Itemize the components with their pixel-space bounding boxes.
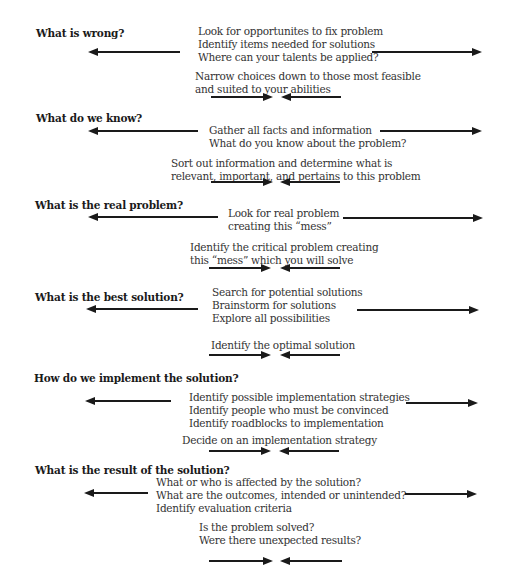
stage-1-expand-line-3: Where can your talents be applied? bbox=[198, 51, 383, 64]
stage-3-expand-line-1: Look for real problem bbox=[228, 207, 339, 220]
stage-6-expand-text: What or who is affected by the solution?… bbox=[156, 476, 406, 515]
stage-1-heading: What is wrong? bbox=[36, 27, 124, 39]
stage-6-converge-line-1: Is the problem solved? bbox=[199, 521, 361, 534]
stage-1-expand-line-1: Look for opportunites to fix problem bbox=[198, 25, 383, 38]
stage-6-expand-line-2: What are the outcomes, intended or unint… bbox=[156, 489, 406, 502]
stage-1-expand-line-2: Identify items needed for solutions bbox=[198, 38, 383, 51]
stage-1-expand-text: Look for opportunites to fix problem Ide… bbox=[198, 25, 383, 64]
arrow-left-icon bbox=[84, 488, 148, 498]
stage-6-converge-line-2: Were there unexpected results? bbox=[199, 534, 361, 547]
arrow-left-icon bbox=[86, 304, 198, 314]
stage-3-heading: What is the real problem? bbox=[35, 199, 183, 211]
arrow-right-icon bbox=[405, 489, 477, 499]
stage-6-converge-text: Is the problem solved? Were there unexpe… bbox=[199, 521, 361, 547]
stage-5-heading: How do we implement the solution? bbox=[34, 372, 238, 384]
stage-4-expand-text: Search for potential solutions Brainstor… bbox=[212, 286, 362, 325]
stage-6-expand-line-3: Identify evaluation criteria bbox=[156, 502, 406, 515]
stage-6-expand-line-1: What or who is affected by the solution? bbox=[156, 476, 406, 489]
converge-arrow-left-icon bbox=[281, 92, 341, 102]
arrow-right-icon bbox=[372, 47, 482, 57]
stage-5-expand-line-2: Identify people who must be convinced bbox=[189, 404, 410, 417]
converge-arrow-left-icon bbox=[280, 177, 340, 187]
arrow-right-icon bbox=[357, 305, 479, 315]
stage-2-converge-line-1: Sort out information and determine what … bbox=[171, 157, 421, 170]
stage-4-expand-line-1: Search for potential solutions bbox=[212, 286, 362, 299]
arrow-left-icon bbox=[85, 396, 171, 406]
stage-3-expand-line-2: creating this “mess” bbox=[228, 220, 339, 233]
stage-2-expand-line-2: What do you know about the problem? bbox=[209, 137, 406, 150]
converge-arrow-right-icon bbox=[211, 177, 273, 187]
stage-2-heading: What do we know? bbox=[36, 112, 142, 124]
stage-2-expand-text: Gather all facts and information What do… bbox=[209, 124, 406, 150]
converge-arrow-right-icon bbox=[209, 556, 273, 566]
arrow-right-icon bbox=[343, 213, 483, 223]
stage-6-heading: What is the result of the solution? bbox=[35, 464, 230, 476]
converge-arrow-left-icon bbox=[280, 350, 340, 360]
stage-3-converge-line-1: Identify the critical problem creating bbox=[190, 241, 378, 254]
converge-arrow-right-icon bbox=[209, 446, 271, 456]
converge-arrow-left-icon bbox=[280, 556, 342, 566]
arrow-right-icon bbox=[380, 126, 482, 136]
stage-5-expand-text: Identify possible implementation strateg… bbox=[189, 391, 410, 430]
converge-arrow-right-icon bbox=[209, 350, 271, 360]
converge-arrow-left-icon bbox=[280, 263, 340, 273]
arrow-left-icon bbox=[88, 212, 218, 222]
stage-5-expand-line-1: Identify possible implementation strateg… bbox=[189, 391, 410, 404]
converge-arrow-right-icon bbox=[211, 92, 273, 102]
arrow-right-icon bbox=[406, 398, 478, 408]
arrow-left-icon bbox=[88, 47, 180, 57]
stage-4-heading: What is the best solution? bbox=[35, 291, 184, 303]
stage-5-expand-line-3: Identify roadblocks to implementation bbox=[189, 417, 410, 430]
stage-1-converge-line-1: Narrow choices down to those most feasib… bbox=[195, 70, 421, 83]
converge-arrow-left-icon bbox=[279, 446, 339, 456]
converge-arrow-right-icon bbox=[209, 263, 271, 273]
arrow-left-icon bbox=[88, 126, 198, 136]
stage-2-expand-line-1: Gather all facts and information bbox=[209, 124, 406, 137]
stage-3-expand-text: Look for real problem creating this “mes… bbox=[228, 207, 339, 233]
stage-4-expand-line-3: Explore all possibilities bbox=[212, 312, 362, 325]
stage-4-expand-line-2: Brainstorm for solutions bbox=[212, 299, 362, 312]
